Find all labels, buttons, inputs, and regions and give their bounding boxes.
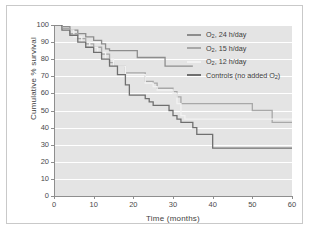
legend-label: O2, 12 h/day xyxy=(206,57,246,66)
curve-0 xyxy=(54,25,193,66)
figure-frame: 0102030405060708090100 0102030405060 Cum… xyxy=(6,5,303,224)
legend-label: O2, 15 h/day xyxy=(206,44,246,53)
legend-item-0[interactable]: O2, 24 h/day xyxy=(187,28,303,42)
legend-swatch-icon xyxy=(187,34,201,36)
legend: O2, 24 h/dayO2, 15 h/dayO2, 12 h/dayCont… xyxy=(187,28,303,82)
legend-swatch-icon xyxy=(187,47,201,49)
legend-label: O2, 24 h/day xyxy=(206,30,246,39)
legend-item-1[interactable]: O2, 15 h/day xyxy=(187,42,303,56)
legend-label: Controls (no added O2) xyxy=(206,71,280,80)
legend-item-3[interactable]: Controls (no added O2) xyxy=(187,69,303,83)
legend-swatch-icon xyxy=(187,74,201,76)
legend-swatch-icon xyxy=(187,61,201,63)
figure: 0102030405060708090100 0102030405060 Cum… xyxy=(0,0,310,230)
x-axis-label: Time (months) xyxy=(54,214,292,223)
y-axis-label: Cumulative % survival xyxy=(29,9,38,149)
legend-item-2[interactable]: O2, 12 h/day xyxy=(187,55,303,69)
